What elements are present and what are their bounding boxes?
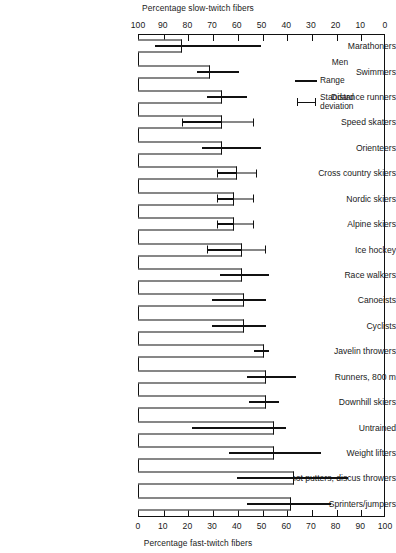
range-line <box>254 350 269 352</box>
range-line <box>237 477 348 479</box>
tick-mark <box>188 35 189 41</box>
bottom-tick-0: 0 <box>136 521 141 531</box>
top-tick-90: 90 <box>158 20 168 30</box>
top-tick-40: 40 <box>281 20 291 30</box>
range-line <box>229 452 320 454</box>
thick-line-icon <box>294 76 320 86</box>
category-label: Cyclists <box>262 321 396 331</box>
tick-mark <box>213 35 214 41</box>
range-line <box>247 376 296 378</box>
tick-mark <box>164 510 165 516</box>
tick-mark <box>263 35 264 41</box>
top-axis-tick-labels: 1009080706050403020100 <box>0 20 396 32</box>
tick-mark <box>238 35 239 41</box>
bottom-tick-10: 10 <box>158 521 168 531</box>
bottom-tick-90: 90 <box>356 521 366 531</box>
tick-mark <box>312 510 313 516</box>
category-label: Race walkers <box>262 270 396 280</box>
range-line <box>192 427 286 429</box>
muscle-fiber-chart: Percentage slow-twitch fibers 1009080706… <box>0 0 396 553</box>
legend-title: Men <box>294 57 386 67</box>
bottom-axis-tick-labels: 0102030405060708090100 <box>0 521 396 533</box>
tick-mark <box>188 510 189 516</box>
bottom-tick-40: 40 <box>232 521 242 531</box>
error-bar-icon <box>294 97 320 107</box>
range-line <box>249 401 279 403</box>
category-label: Canoeists <box>262 295 396 305</box>
legend-item-range-label: Range <box>320 76 345 85</box>
legend: Men Range Standard deviation <box>294 57 386 119</box>
top-tick-0: 0 <box>383 20 388 30</box>
tick-mark <box>238 510 239 516</box>
standard-deviation-bar <box>182 122 254 123</box>
range-line <box>212 299 266 301</box>
tick-mark <box>361 35 362 41</box>
tick-mark <box>312 35 313 41</box>
range-line <box>155 45 261 47</box>
standard-deviation-bar <box>207 249 266 250</box>
tick-mark <box>361 510 362 516</box>
bottom-tick-70: 70 <box>306 521 316 531</box>
bottom-tick-60: 60 <box>281 521 291 531</box>
top-tick-80: 80 <box>183 20 193 30</box>
tick-mark <box>337 35 338 41</box>
top-tick-70: 70 <box>207 20 217 30</box>
top-tick-30: 30 <box>306 20 316 30</box>
top-tick-10: 10 <box>356 20 366 30</box>
range-line <box>212 325 266 327</box>
standard-deviation-bar <box>217 173 257 174</box>
legend-item-range: Range <box>294 76 386 86</box>
range-line <box>247 503 331 505</box>
category-label: Cross country skiers <box>262 168 396 178</box>
category-label: Downhill skiers <box>262 397 396 407</box>
category-label: Alpine skiers <box>262 219 396 229</box>
legend-item-standard-deviation: Standard deviation <box>294 93 386 112</box>
tick-mark <box>213 510 214 516</box>
bottom-axis-title: Percentage fast-twitch fibers <box>0 538 396 548</box>
tick-mark <box>263 510 264 516</box>
category-label: Ice hockey <box>262 245 396 255</box>
category-label: Nordic skiers <box>262 194 396 204</box>
tick-mark <box>287 35 288 41</box>
bottom-tick-20: 20 <box>183 521 193 531</box>
range-line <box>220 274 269 276</box>
range-line <box>207 96 247 98</box>
legend-item-sd-label: Standard deviation <box>320 93 386 112</box>
standard-deviation-bar <box>217 224 254 225</box>
top-axis-title: Percentage slow-twitch fibers <box>0 3 396 13</box>
top-tick-60: 60 <box>232 20 242 30</box>
bar <box>138 345 264 358</box>
range-line <box>202 147 261 149</box>
category-label: Orienteers <box>262 143 396 153</box>
standard-deviation-bar <box>217 198 254 199</box>
category-label: Javelin throwers <box>262 346 396 356</box>
bottom-tick-100: 100 <box>378 521 392 531</box>
bottom-tick-30: 30 <box>207 521 217 531</box>
bottom-tick-50: 50 <box>257 521 267 531</box>
top-tick-50: 50 <box>257 20 267 30</box>
bottom-tick-80: 80 <box>331 521 341 531</box>
category-label: Speed skaters <box>262 117 396 127</box>
range-line <box>197 71 239 73</box>
category-label: Marathoners <box>262 41 396 51</box>
tick-mark <box>337 510 338 516</box>
top-tick-20: 20 <box>331 20 341 30</box>
tick-mark <box>287 510 288 516</box>
bar <box>138 396 266 409</box>
top-tick-100: 100 <box>131 20 145 30</box>
